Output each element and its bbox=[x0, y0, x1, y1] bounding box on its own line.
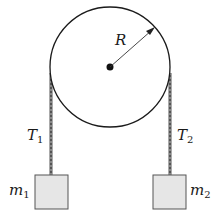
mass-block-2 bbox=[153, 175, 186, 209]
tension-label-1: T1 bbox=[27, 128, 43, 145]
radius-label: R bbox=[115, 33, 126, 48]
pulley-diagram bbox=[0, 0, 216, 213]
mass-label-2: m2 bbox=[190, 183, 211, 200]
mass-label-1: m1 bbox=[9, 183, 30, 200]
mass-block-1 bbox=[35, 175, 68, 209]
tension-label-2: T2 bbox=[177, 128, 193, 145]
